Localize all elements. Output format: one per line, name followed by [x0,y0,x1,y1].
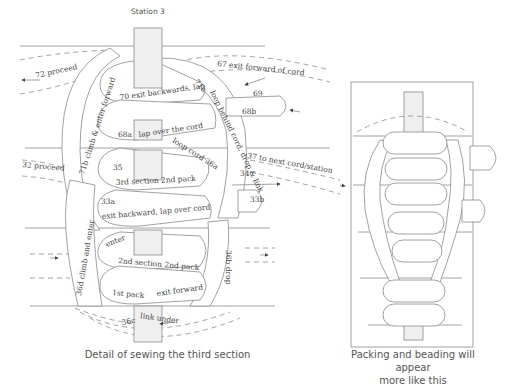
sewing-diagram: Station 3 72 proceed 67 exit forward of … [0,0,510,385]
left-caption: Detail of sewing the third section [60,348,275,361]
station-label: Station 3 [131,7,165,16]
label-67-exit-forward: 67 exit forward of cord [217,59,305,77]
label-72-proceed: 72 proceed [35,62,79,80]
label-33b: 33b [250,195,265,204]
label-32-proceed: 32 proceed [22,160,66,173]
label-37-next-station: 37 to next cord/station [247,151,334,175]
label-68a: 68a [118,130,133,139]
right-caption-line2: more like this [338,374,488,385]
label-34: 34 [240,169,250,178]
label-33a: 33a [101,197,116,206]
station-cord [134,28,162,88]
label-35: 35 [113,163,123,172]
label-68b: 68b [242,107,257,116]
label-36b-drop: 36b drop [224,250,233,285]
right-caption-line1: Packing and beading will appear [338,348,488,374]
right-caption: Packing and beading will appear more lik… [338,348,488,385]
left-diagram: Station 3 72 proceed 67 exit forward of … [20,7,345,342]
right-diagram [351,82,496,347]
label-69: 69 [253,89,263,98]
